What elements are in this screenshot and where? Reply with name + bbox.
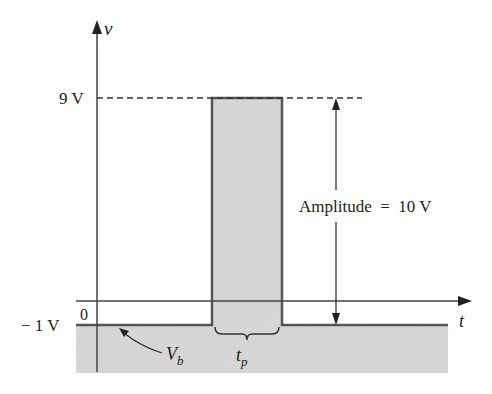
amplitude-arrow-up-icon (332, 98, 340, 110)
origin-label: 0 (80, 306, 88, 323)
base-level-label: − 1 V (21, 316, 60, 335)
pulse-shaded-region (212, 98, 282, 325)
baseline-label-sub: b (177, 353, 184, 368)
vertical-axis-label: v (104, 18, 113, 39)
peak-level-label: 9 V (59, 89, 84, 108)
amplitude-arrow-down-icon (332, 313, 340, 325)
pulse-width-label-sub: p (240, 354, 248, 369)
time-axis-label: t (459, 311, 465, 331)
amplitude-label: Amplitude = 10 V (299, 197, 432, 216)
baseline-shaded-region (76, 325, 448, 373)
pulse-diagram: v 9 V 0 − 1 V Amplitude = 10 V t Vb tp (0, 0, 492, 394)
vertical-axis-arrow-icon (92, 20, 102, 34)
time-axis-arrow-icon (458, 296, 472, 306)
